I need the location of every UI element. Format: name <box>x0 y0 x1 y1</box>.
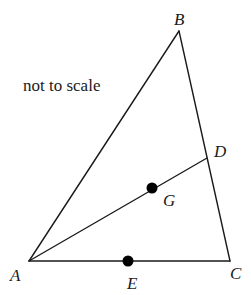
label-c: C <box>230 264 242 283</box>
label-b: B <box>174 10 185 29</box>
triangle-diagram: not to scale B D G A E C <box>0 0 251 295</box>
point-g-dot <box>147 183 158 194</box>
segment-ad <box>29 158 207 261</box>
point-e-dot <box>123 256 134 267</box>
label-d: D <box>213 142 227 161</box>
label-g: G <box>163 191 175 210</box>
segment-ab <box>29 31 179 261</box>
label-a: A <box>9 266 21 285</box>
not-to-scale-note: not to scale <box>23 76 100 95</box>
label-e: E <box>126 274 138 293</box>
